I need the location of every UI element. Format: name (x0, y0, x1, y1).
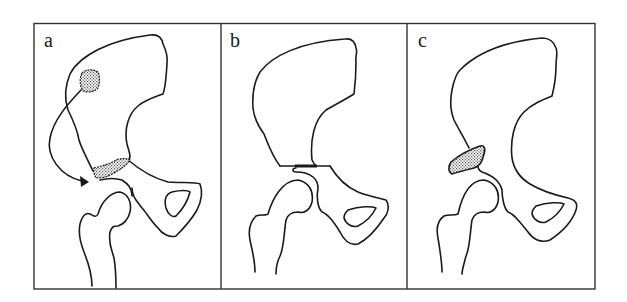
ilium-outline (253, 39, 357, 166)
panel-label-c: c (418, 30, 427, 50)
figure: a b c (0, 0, 627, 302)
donor-graft-site (80, 70, 99, 92)
panel-label-b: b (230, 30, 240, 50)
panel-frame (34, 24, 595, 290)
obturator-foramen (344, 207, 376, 227)
panel-b-drawing (249, 39, 388, 274)
ilium-outline (66, 35, 168, 171)
arrow-head-icon (80, 176, 89, 187)
panel-a-drawing (49, 35, 201, 288)
obturator-foramen (532, 203, 564, 223)
pubis-outline (293, 166, 388, 244)
graft-recipient-site (94, 159, 130, 179)
femur-outline (79, 192, 130, 288)
osteotomy-cut (295, 165, 317, 168)
pubis-outline (128, 160, 201, 237)
femur-outline (249, 180, 312, 274)
femur-outline (437, 180, 498, 274)
panel-c-drawing (437, 38, 576, 274)
obturator-foramen (165, 191, 190, 217)
ilium-outline (451, 38, 577, 241)
figure-drawing (0, 0, 627, 302)
panel-label-a: a (44, 30, 53, 50)
